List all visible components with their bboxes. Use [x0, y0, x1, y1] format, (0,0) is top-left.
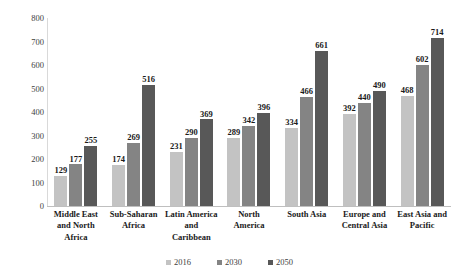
y-tick-label: 300	[4, 131, 44, 140]
bar-item[interactable]: 392	[343, 18, 356, 206]
bar-rect[interactable]	[373, 91, 386, 206]
bar-value-label: 334	[285, 118, 298, 128]
bar-rect[interactable]	[416, 65, 429, 206]
bar-rect[interactable]	[200, 119, 213, 206]
bar-item[interactable]: 440	[358, 18, 371, 206]
bar-item[interactable]: 174	[112, 18, 125, 206]
x-axis-label-line: Latin America	[162, 209, 220, 220]
bar-rect[interactable]	[242, 126, 255, 206]
bar-group-bars: 468602714	[393, 18, 451, 206]
bar-group-bars: 231290369	[162, 18, 220, 206]
bar-rect[interactable]	[343, 114, 356, 206]
bar-group: 334466661	[278, 18, 336, 206]
bar-rect[interactable]	[69, 164, 82, 206]
y-tick-label: 0	[4, 202, 44, 211]
bar-rect[interactable]	[170, 152, 183, 206]
x-axis-label: Sub-SaharanAfrica	[105, 209, 163, 232]
x-axis-label-line: South Asia	[278, 209, 336, 220]
bar-value-label: 129	[54, 166, 67, 176]
bar-rect[interactable]	[315, 51, 328, 206]
x-axis-label-line: Central Asia	[336, 220, 394, 231]
x-axis-label-line: Sub-Saharan	[105, 209, 163, 220]
x-axis-label-line: North	[220, 209, 278, 220]
bar-rect[interactable]	[401, 96, 414, 206]
bar-rect[interactable]	[300, 97, 313, 207]
bar-item[interactable]: 334	[285, 18, 298, 206]
bar-value-label: 490	[373, 81, 386, 91]
bar-group: 392440490	[336, 18, 394, 206]
bar-item[interactable]: 468	[401, 18, 414, 206]
bar-value-label: 269	[127, 133, 140, 143]
bar-value-label: 468	[401, 86, 414, 96]
x-axis-label-line: Middle East	[47, 209, 105, 220]
bar-item[interactable]: 177	[69, 18, 82, 206]
x-axis-label-line: Caribbean	[162, 232, 220, 243]
bar-rect[interactable]	[84, 146, 97, 206]
bar-item[interactable]: 342	[242, 18, 255, 206]
y-axis-ticks: 0100200300400500600700800	[0, 0, 44, 280]
bar-value-label: 289	[228, 128, 241, 138]
bar-item[interactable]: 129	[54, 18, 67, 206]
bar-item[interactable]: 661	[315, 18, 328, 206]
bar-item[interactable]: 269	[127, 18, 140, 206]
bar-item[interactable]: 255	[84, 18, 97, 206]
bar-item[interactable]: 231	[170, 18, 183, 206]
y-tick-label: 600	[4, 61, 44, 70]
bar-rect[interactable]	[227, 138, 240, 206]
bar-value-label: 369	[200, 110, 213, 120]
x-axis-label: NorthAmerica	[220, 209, 278, 232]
bar-rect[interactable]	[112, 165, 125, 206]
bar-group: 468602714	[393, 18, 451, 206]
bar-group: 289342396	[220, 18, 278, 206]
legend-item[interactable]: 2016	[166, 258, 191, 267]
bar-group: 231290369	[162, 18, 220, 206]
legend-item[interactable]: 2030	[217, 258, 242, 267]
bar-rect[interactable]	[257, 113, 270, 206]
bar-value-label: 466	[300, 87, 313, 97]
bar-value-label: 714	[431, 28, 444, 38]
legend-swatch-icon	[217, 260, 222, 265]
bar-value-label: 255	[84, 136, 97, 146]
x-axis-label: East Asia andPacific	[393, 209, 451, 232]
x-axis-label-line: America	[220, 220, 278, 231]
bar-value-label: 290	[185, 128, 198, 138]
y-tick-label: 800	[4, 14, 44, 23]
bar-group: 174269516	[105, 18, 163, 206]
x-axis-label-line: Africa	[47, 232, 105, 243]
legend-item[interactable]: 2050	[268, 258, 293, 267]
bar-item[interactable]: 714	[431, 18, 444, 206]
x-axis-label-line: Europe and	[336, 209, 394, 220]
bar-rect[interactable]	[142, 85, 155, 206]
bar-value-label: 661	[315, 41, 328, 51]
plot-area: 1291772551742695162312903692893423963344…	[47, 18, 451, 206]
bar-group-bars: 129177255	[47, 18, 105, 206]
bar-group-bars: 289342396	[220, 18, 278, 206]
bar-group-bars: 334466661	[278, 18, 336, 206]
bar-item[interactable]: 466	[300, 18, 313, 206]
bar-rect[interactable]	[431, 38, 444, 206]
bar-item[interactable]: 289	[227, 18, 240, 206]
legend-label: 2030	[225, 258, 242, 267]
bar-chart: 0100200300400500600700800 12917725517426…	[0, 0, 459, 280]
bar-item[interactable]: 290	[185, 18, 198, 206]
y-tick-label: 700	[4, 37, 44, 46]
bar-rect[interactable]	[358, 103, 371, 206]
bar-rect[interactable]	[54, 176, 67, 206]
y-tick-label: 400	[4, 108, 44, 117]
bar-item[interactable]: 490	[373, 18, 386, 206]
bar-rect[interactable]	[285, 128, 298, 206]
bar-group-bars: 392440490	[336, 18, 394, 206]
legend-label: 2016	[174, 258, 191, 267]
x-axis-label: Middle Eastand NorthAfrica	[47, 209, 105, 243]
bar-item[interactable]: 516	[142, 18, 155, 206]
bar-item[interactable]: 369	[200, 18, 213, 206]
bar-group: 129177255	[47, 18, 105, 206]
x-axis-label-line: Pacific	[393, 220, 451, 231]
bar-item[interactable]: 602	[416, 18, 429, 206]
bar-item[interactable]: 396	[257, 18, 270, 206]
bar-rect[interactable]	[127, 143, 140, 206]
x-axis-label-line: East Asia and	[393, 209, 451, 220]
x-axis-line	[47, 206, 451, 207]
bar-rect[interactable]	[185, 138, 198, 206]
bar-group-bars: 174269516	[105, 18, 163, 206]
